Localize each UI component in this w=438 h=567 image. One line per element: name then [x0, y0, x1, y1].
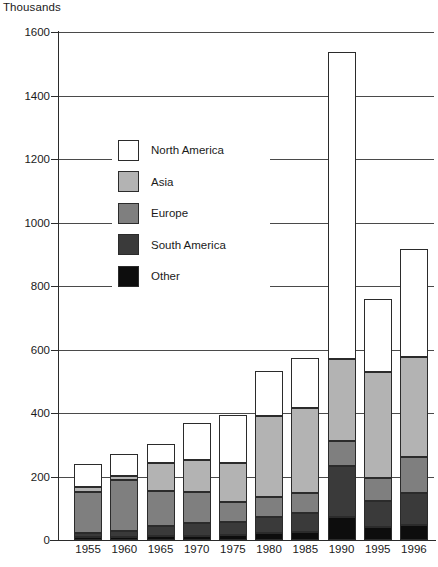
bar-segment-1990-north-america: [328, 52, 356, 359]
legend-label-asia: Asia: [151, 176, 173, 188]
y-tick-label-1000: 1000: [24, 217, 50, 229]
bar-segment-1970-europe: [183, 492, 211, 522]
legend-label-europe: Europe: [151, 207, 188, 219]
y-tick-0: [51, 540, 59, 541]
bar-segment-1996-south-america: [400, 493, 428, 525]
y-tick-label-1200: 1200: [24, 153, 50, 165]
bar-1960: [110, 454, 138, 540]
legend-swatch-europe: [118, 203, 139, 224]
x-tick-label-1990: 1990: [329, 543, 355, 555]
x-tick-label-1985: 1985: [293, 543, 319, 555]
bar-1996: [400, 249, 428, 540]
bar-segment-1980-asia: [255, 416, 283, 497]
bar-segment-1955-north-america: [74, 464, 102, 486]
bar-segment-1970-north-america: [183, 423, 211, 460]
bar-segment-1960-other: [110, 537, 138, 540]
y-tick-600: [51, 350, 59, 351]
bar-segment-1965-europe: [147, 491, 175, 527]
legend-swatch-asia: [118, 171, 139, 192]
bar-segment-1980-europe: [255, 497, 283, 516]
bar-1990: [328, 52, 356, 540]
y-tick-label-200: 200: [31, 471, 50, 483]
y-tick-1400: [51, 96, 59, 97]
legend-label-north-america: North America: [151, 144, 224, 156]
bar-segment-1995-south-america: [364, 501, 392, 527]
legend-label-other: Other: [151, 270, 180, 282]
bar-1975: [219, 415, 247, 540]
x-tick-label-1970: 1970: [184, 543, 210, 555]
x-tick-label-1960: 1960: [112, 543, 138, 555]
x-tick-label-1975: 1975: [220, 543, 246, 555]
bar-segment-1990-other: [328, 517, 356, 540]
bar-segment-1955-other: [74, 537, 102, 540]
bar-segment-1996-europe: [400, 457, 428, 493]
stacked-bar-chart: Thousands 02004006008001000120014001600 …: [0, 0, 438, 567]
bar-1970: [183, 423, 211, 540]
x-tick-label-1965: 1965: [148, 543, 174, 555]
x-axis-line: [50, 540, 436, 541]
bar-segment-1965-asia: [147, 463, 175, 491]
bar-segment-1985-south-america: [291, 513, 319, 531]
y-tick-label-1600: 1600: [24, 26, 50, 38]
legend: North AmericaAsiaEuropeSouth AmericaOthe…: [118, 139, 268, 297]
y-tick-label-400: 400: [31, 407, 50, 419]
bar-segment-1995-asia: [364, 372, 392, 479]
bar-segment-1970-south-america: [183, 523, 211, 536]
bar-segment-1955-europe: [74, 492, 102, 533]
bar-segment-1995-other: [364, 527, 392, 540]
bar-segment-1970-asia: [183, 460, 211, 492]
bar-segment-1990-europe: [328, 441, 356, 466]
bar-1995: [364, 299, 392, 540]
x-tick-label-1995: 1995: [365, 543, 391, 555]
legend-label-south-america: South America: [151, 239, 226, 251]
bar-segment-1980-other: [255, 533, 283, 540]
bar-segment-1980-north-america: [255, 371, 283, 416]
bar-segment-1975-europe: [219, 502, 247, 522]
bar-1955: [74, 464, 102, 540]
legend-swatch-other: [118, 266, 139, 287]
gridline-1400: [58, 96, 434, 97]
y-tick-1000: [51, 223, 59, 224]
bar-segment-1980-south-america: [255, 517, 283, 534]
bar-segment-1990-asia: [328, 359, 356, 441]
bar-segment-1985-other: [291, 532, 319, 540]
bar-segment-1990-south-america: [328, 466, 356, 517]
y-tick-label-1400: 1400: [24, 90, 50, 102]
legend-swatch-south-america: [118, 234, 139, 255]
bar-segment-1996-asia: [400, 357, 428, 458]
legend-item-other: Other: [118, 265, 268, 287]
bar-segment-1965-north-america: [147, 444, 175, 462]
legend-item-north-america: North America: [118, 139, 268, 161]
x-tick-label-1996: 1996: [401, 543, 427, 555]
bar-segment-1975-asia: [219, 463, 247, 502]
bar-segment-1975-north-america: [219, 415, 247, 463]
bar-segment-1985-north-america: [291, 358, 319, 408]
bar-segment-1995-europe: [364, 478, 392, 501]
bar-segment-1975-other: [219, 535, 247, 540]
bar-segment-1960-north-america: [110, 454, 138, 476]
bar-segment-1995-north-america: [364, 299, 392, 371]
x-axis-tick-labels: 1955196019651970197519801985199019951996: [58, 543, 434, 563]
bar-segment-1985-europe: [291, 493, 319, 513]
bar-segment-1965-south-america: [147, 526, 175, 536]
y-axis-unit-caption: Thousands: [3, 1, 61, 13]
bar-1965: [147, 444, 175, 540]
legend-item-europe: Europe: [118, 202, 268, 224]
y-tick-1200: [51, 159, 59, 160]
bar-segment-1965-other: [147, 536, 175, 540]
bar-segment-1970-other: [183, 536, 211, 540]
bar-segment-1960-europe: [110, 480, 138, 531]
legend-item-asia: Asia: [118, 171, 268, 193]
bar-1985: [291, 358, 319, 540]
x-tick-label-1980: 1980: [256, 543, 282, 555]
y-axis-tick-labels: 02004006008001000120014001600: [0, 32, 50, 540]
y-tick-label-800: 800: [31, 280, 50, 292]
legend-swatch-north-america: [118, 140, 139, 161]
legend-item-south-america: South America: [118, 234, 268, 256]
x-tick-label-1955: 1955: [75, 543, 101, 555]
bar-segment-1996-other: [400, 525, 428, 540]
y-tick-200: [51, 477, 59, 478]
gridline-1600: [58, 32, 434, 33]
bar-segment-1985-asia: [291, 408, 319, 493]
y-tick-400: [51, 413, 59, 414]
